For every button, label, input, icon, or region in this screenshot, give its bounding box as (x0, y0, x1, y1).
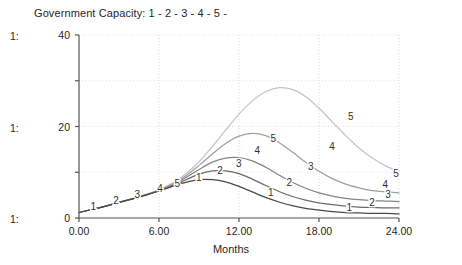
curve-label-3: 3 (308, 161, 314, 172)
curve-label-3: 3 (135, 189, 141, 200)
curve-label-5: 5 (175, 178, 181, 189)
plot-svg: 1122334455112233445511223344551122334455 (0, 0, 462, 265)
curve-label-5: 5 (393, 168, 399, 179)
axis-lines (75, 35, 399, 222)
curve-label-2: 2 (369, 197, 375, 208)
curve-label-4: 4 (383, 179, 389, 190)
chart-container: Government Capacity: 1 - 2 - 3 - 4 - 5 -… (0, 0, 462, 265)
curve-label-2: 2 (113, 195, 119, 206)
curve-label-2: 2 (287, 177, 293, 188)
curve-label-2: 2 (217, 165, 223, 176)
curve-label-5: 5 (348, 111, 354, 122)
curve-label-4: 4 (157, 183, 163, 194)
curve-label-5: 5 (271, 133, 277, 144)
grid-lines (79, 35, 399, 218)
curve-label-1: 1 (196, 172, 202, 183)
curve-label-4: 4 (329, 141, 335, 152)
curve-label-1: 1 (91, 201, 97, 212)
curve-label-3: 3 (236, 158, 242, 169)
series-line-5 (79, 88, 399, 213)
curve-label-1: 1 (268, 187, 274, 198)
curve-label-1: 1 (347, 202, 353, 213)
curve-label-4: 4 (255, 145, 261, 156)
curve-label-3: 3 (385, 189, 391, 200)
